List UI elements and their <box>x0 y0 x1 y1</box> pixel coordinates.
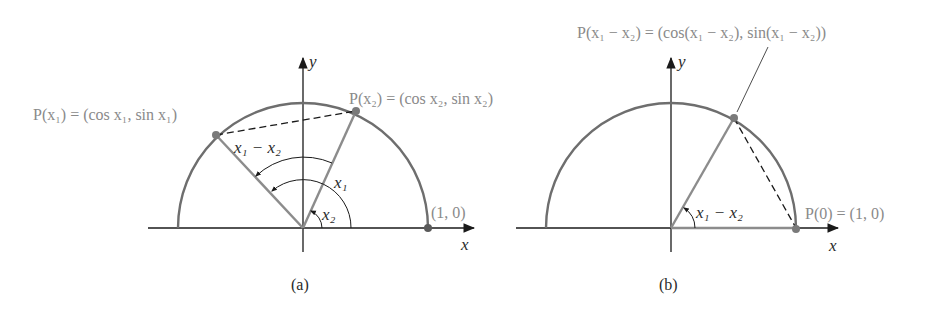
point-diff <box>730 114 738 122</box>
chord-dashed-b <box>734 118 796 228</box>
unit-circle-diagram: P(x₁) = (cos x₁, sin x₁) P(x₂) = (cos x₂… <box>0 0 949 309</box>
label-point-zero: P(0) = (1, 0) <box>805 205 884 223</box>
label-x-axis: x <box>460 235 469 254</box>
panel-b: P(x₁ − x₂) = (cos(x₁ − x₂), sin(x₁ − x₂)… <box>516 24 884 294</box>
label-point-x2: P(x₂) = (cos x₂, sin x₂) <box>349 90 493 108</box>
label-point-diff: P(x₁ − x₂) = (cos(x₁ − x₂), sin(x₁ − x₂)… <box>577 24 826 42</box>
angle-arc-diff <box>256 157 332 176</box>
label-point-x1: P(x₁) = (cos x₁, sin x₁) <box>33 106 177 124</box>
leader-line <box>737 47 768 112</box>
caption-a: (a) <box>291 276 309 294</box>
point-zero <box>792 225 800 233</box>
caption-b: (b) <box>659 276 678 294</box>
point-1-0 <box>424 224 432 232</box>
label-chord: x₁ − x₂ <box>233 138 281 157</box>
angle-arc-x2 <box>311 211 322 228</box>
panel-a: P(x₁) = (cos x₁, sin x₁) P(x₂) = (cos x₂… <box>33 52 493 294</box>
label-angle-x2: x₂ <box>321 205 336 224</box>
label-point-1-0: (1, 0) <box>431 204 466 222</box>
point-x1 <box>212 131 220 139</box>
label-x-axis-b: x <box>828 236 837 255</box>
label-angle-x1: x₁ <box>333 173 347 192</box>
label-angle-diff: x₁ − x₂ <box>695 203 743 222</box>
point-x2 <box>352 107 360 115</box>
label-y-axis: y <box>307 52 317 71</box>
label-y-axis-b: y <box>676 52 686 71</box>
angle-arc-diff-b <box>684 208 695 228</box>
